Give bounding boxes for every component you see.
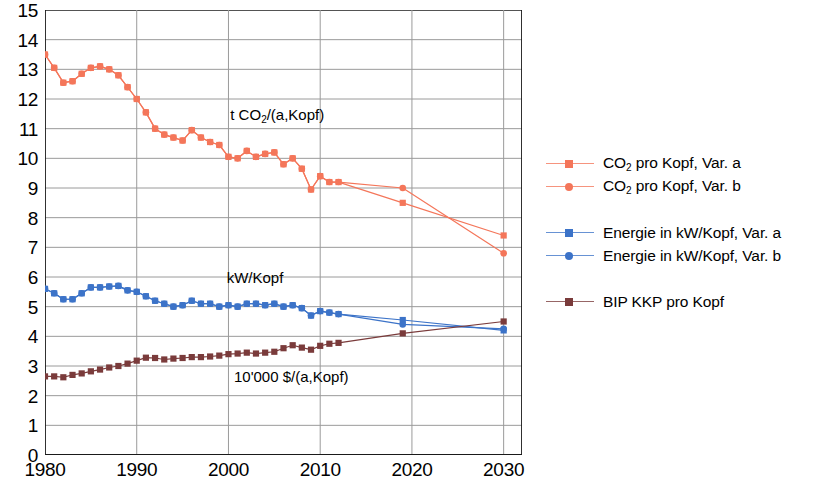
- data-point: [198, 354, 204, 360]
- data-point: [133, 96, 140, 103]
- data-point: [271, 149, 278, 156]
- legend-item[interactable]: Energie in kW/Kopf, Var. a: [546, 221, 830, 244]
- legend-item[interactable]: BIP KKP pro Kopf: [546, 290, 830, 313]
- data-point: [225, 154, 232, 161]
- y-axis-label: 6: [8, 268, 38, 287]
- legend-item[interactable]: CO2 pro Kopf, Var. a: [546, 152, 830, 175]
- data-point: [234, 155, 241, 162]
- y-axis-label: 12: [8, 90, 38, 109]
- data-point: [69, 296, 76, 303]
- data-point: [106, 364, 112, 370]
- data-point: [335, 340, 341, 346]
- data-point: [500, 250, 507, 257]
- legend-marker-icon: [546, 249, 594, 263]
- data-point: [60, 374, 66, 380]
- legend-item[interactable]: CO2 pro Kopf, Var. b: [546, 175, 830, 198]
- legend-spacer: [546, 267, 830, 290]
- data-point: [188, 127, 195, 134]
- legend-marker-icon: [546, 295, 594, 309]
- y-axis-label: 9: [8, 179, 38, 198]
- data-point: [400, 330, 406, 336]
- data-point: [198, 300, 205, 307]
- data-point: [88, 368, 94, 374]
- data-point: [308, 347, 314, 353]
- data-point: [69, 372, 75, 378]
- chart-legend: CO2 pro Kopf, Var. aCO2 pro Kopf, Var. b…: [546, 152, 830, 313]
- legend-group: Energie in kW/Kopf, Var. aEnergie in kW/…: [546, 221, 830, 267]
- data-point: [143, 109, 150, 116]
- y-axis-label: 2: [8, 387, 38, 406]
- plot-annotation: kW/Kopf: [227, 270, 284, 285]
- data-point: [299, 165, 306, 172]
- data-point: [308, 186, 315, 193]
- legend-label: Energie in kW/Kopf, Var. b: [603, 248, 781, 264]
- data-point: [124, 287, 131, 294]
- data-point: [124, 361, 130, 367]
- data-point: [207, 353, 213, 359]
- data-point: [198, 134, 205, 141]
- y-axis-label: 14: [8, 31, 38, 50]
- data-point: [335, 179, 342, 186]
- data-point: [189, 354, 195, 360]
- y-axis-label: 15: [8, 1, 38, 20]
- x-axis-label: 2000: [193, 460, 263, 479]
- data-point: [115, 283, 122, 290]
- data-point: [253, 154, 260, 161]
- data-point: [290, 342, 296, 348]
- data-point: [179, 302, 186, 309]
- data-point: [188, 297, 195, 304]
- data-point: [253, 300, 260, 307]
- plot-area: t CO2/(a,Kopf)kW/Kopf10'000 $/(a,Kopf): [45, 10, 522, 455]
- data-point: [161, 131, 168, 138]
- data-point: [124, 84, 131, 91]
- data-point: [244, 350, 250, 356]
- data-point: [399, 321, 406, 328]
- data-point: [500, 326, 507, 333]
- data-point: [271, 349, 277, 355]
- data-point: [97, 284, 104, 291]
- data-point: [289, 302, 296, 309]
- data-point: [326, 309, 333, 316]
- data-point: [51, 373, 57, 379]
- data-point: [244, 148, 251, 155]
- y-axis-label: 1: [8, 416, 38, 435]
- x-axis-label: 2030: [469, 460, 539, 479]
- data-point: [317, 308, 324, 315]
- y-axis-tick-labels: 0123456789101112131415: [0, 0, 38, 492]
- legend-label: CO2 pro Kopf, Var. a: [603, 155, 741, 173]
- data-point: [97, 63, 104, 70]
- data-point: [253, 350, 259, 356]
- legend-item[interactable]: Energie in kW/Kopf, Var. b: [546, 244, 830, 267]
- x-axis-label: 1980: [10, 460, 80, 479]
- data-point: [317, 343, 323, 349]
- data-point: [326, 179, 333, 186]
- data-point: [115, 363, 121, 369]
- y-axis-label: 5: [8, 298, 38, 317]
- data-point: [69, 78, 76, 85]
- y-axis-label: 13: [8, 60, 38, 79]
- legend-marker-icon: [546, 180, 594, 194]
- data-point: [143, 355, 149, 361]
- legend-label: CO2 pro Kopf, Var. b: [603, 178, 741, 196]
- legend-marker-icon: [546, 226, 594, 240]
- data-point: [234, 303, 241, 310]
- data-point: [280, 345, 286, 351]
- y-axis-label: 4: [8, 327, 38, 346]
- data-point: [262, 151, 269, 158]
- data-point: [60, 79, 67, 86]
- data-point: [317, 173, 324, 180]
- data-point: [225, 351, 231, 357]
- data-point: [134, 358, 140, 364]
- data-point: [225, 302, 232, 309]
- y-axis-label: 8: [8, 209, 38, 228]
- data-point: [207, 300, 214, 307]
- y-axis-label: 11: [8, 120, 38, 139]
- data-point: [280, 161, 287, 168]
- y-axis-label: 3: [8, 357, 38, 376]
- data-point: [280, 303, 287, 310]
- data-point: [161, 356, 167, 362]
- data-point: [152, 297, 159, 304]
- legend-label: BIP KKP pro Kopf: [603, 294, 724, 310]
- data-point: [179, 137, 186, 144]
- series-3: [45, 283, 507, 333]
